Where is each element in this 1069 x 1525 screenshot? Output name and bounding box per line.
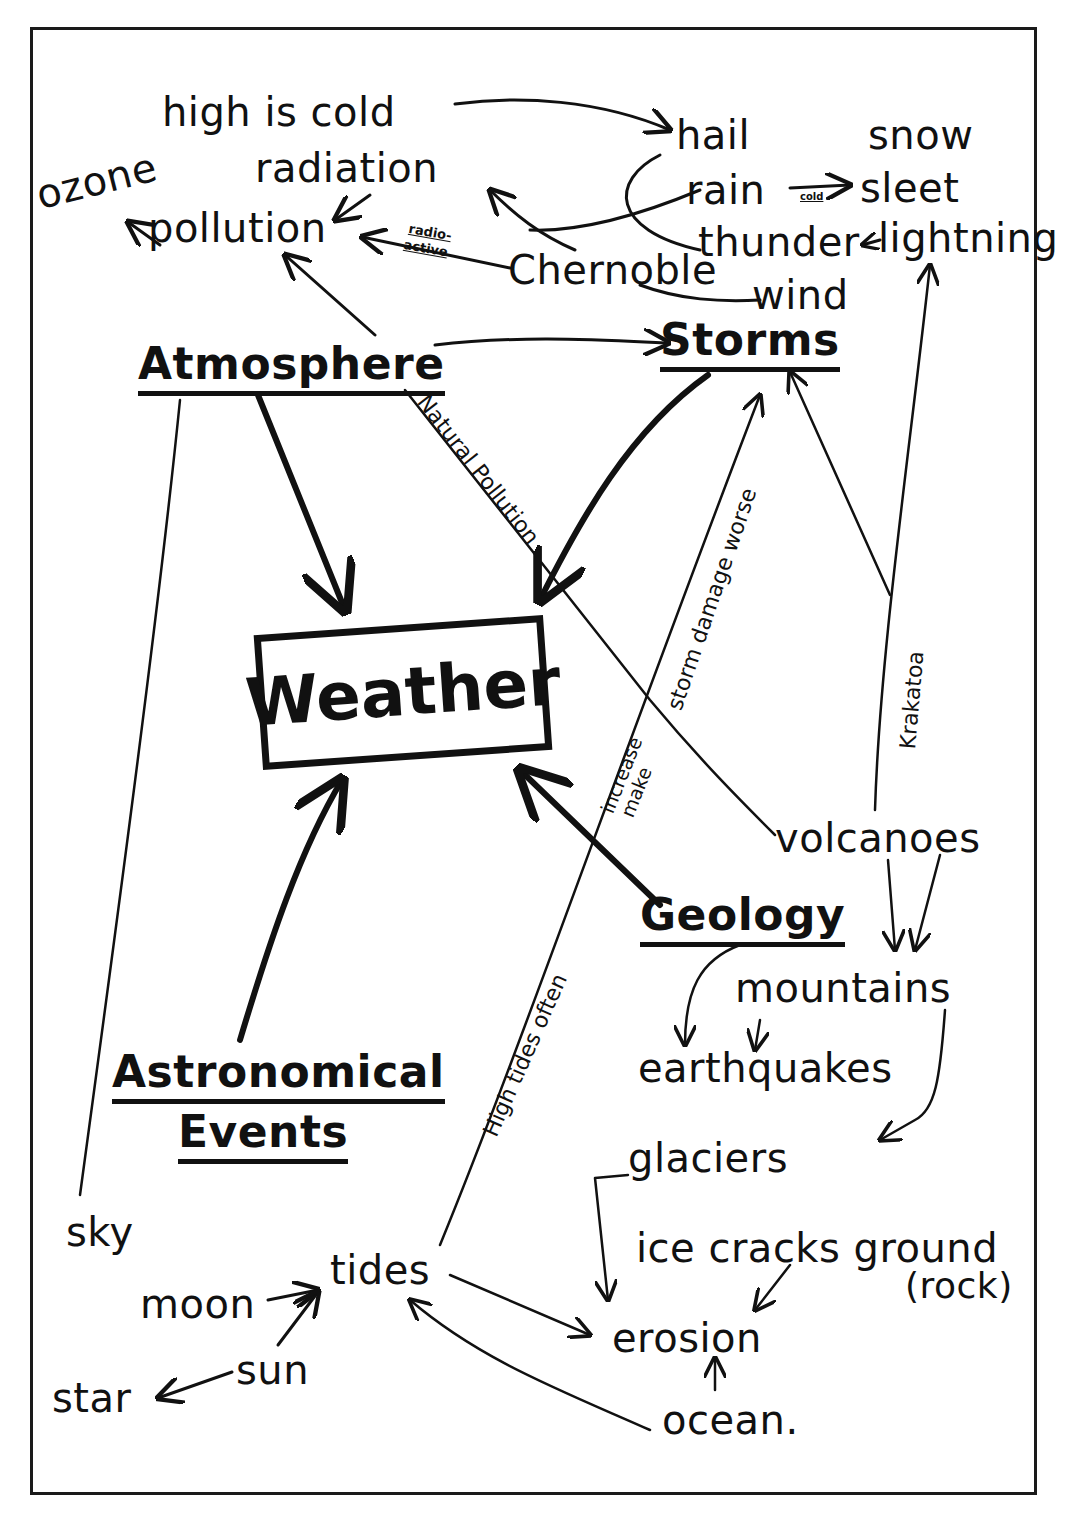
node-pollution: pollution <box>148 208 327 248</box>
edge-sun-to-tides <box>278 1292 318 1345</box>
node-volcanoes: volcanoes <box>775 818 981 858</box>
edge-glaciers-to-erosion <box>595 1175 628 1300</box>
node-moon: moon <box>140 1284 255 1324</box>
central-node-label: Weather <box>243 643 563 742</box>
edge-radiation-to-pollution <box>335 195 370 220</box>
edge-volcanoes-to-mountains-2 <box>915 855 940 950</box>
edge-high-is-cold-to-hail <box>455 100 670 130</box>
node-rain: rain <box>686 170 765 210</box>
node-snow: snow <box>868 115 973 155</box>
node-storms: Storms <box>660 318 840 362</box>
edge-storms-to-weather <box>540 375 708 600</box>
node-ice-cracks-ground: ice cracks ground <box>636 1228 998 1268</box>
node-wind: wind <box>752 275 849 315</box>
edge-astronomical-to-weather <box>240 780 342 1040</box>
edge-ice-cracks-to-erosion <box>755 1265 790 1310</box>
node-tides: tides <box>330 1250 430 1290</box>
edge-volcanoes-to-mountains <box>888 860 895 950</box>
node-astronomical-events-line1: Astronomical <box>112 1050 445 1094</box>
node-radiation: radiation <box>255 148 438 188</box>
node-chernoble: Chernoble <box>508 250 717 290</box>
node-hail: hail <box>676 115 750 155</box>
edge-label-rain-to-sleet: cold <box>800 192 823 202</box>
node-earthquakes: earthquakes <box>638 1048 893 1088</box>
edge-atmosphere-to-pollution <box>285 255 375 335</box>
node-sky: sky <box>66 1212 134 1252</box>
node-lightning: lightning <box>878 218 1058 258</box>
central-node-weather: Weather <box>254 615 553 770</box>
edge-chernoble-to-radiation <box>490 190 575 250</box>
node-high-is-cold: high is cold <box>162 92 396 132</box>
node-ocean: ocean. <box>662 1400 799 1440</box>
node-mountains: mountains <box>735 968 951 1008</box>
node-astronomical-events-line2: Events <box>178 1110 348 1154</box>
node-sun: sun <box>236 1350 309 1390</box>
node-thunder: thunder <box>698 222 860 262</box>
node-sleet: sleet <box>860 168 959 208</box>
node-erosion: erosion <box>612 1318 762 1358</box>
edge-geology-to-earthquakes <box>685 945 740 1045</box>
node-star: star <box>52 1378 131 1418</box>
edge-rain-to-radiation <box>530 190 700 230</box>
edge-atmosphere-to-storms <box>435 339 668 345</box>
node-glaciers: glaciers <box>628 1138 788 1178</box>
edge-atmosphere-to-weather <box>258 395 345 610</box>
edge-rain-to-sleet <box>790 185 850 188</box>
edge-sun-to-star <box>158 1372 232 1398</box>
node-geology: Geology <box>640 893 845 937</box>
edge-tides-to-erosion <box>450 1275 590 1335</box>
node-atmosphere: Atmosphere <box>138 342 445 386</box>
node-rock: (rock) <box>905 1268 1013 1304</box>
edge-krakatoa-to-storms <box>790 372 890 595</box>
edge-moon-to-tides <box>268 1290 318 1300</box>
